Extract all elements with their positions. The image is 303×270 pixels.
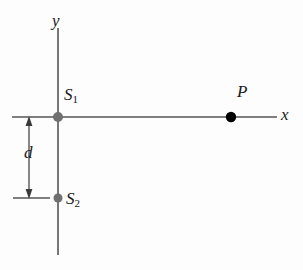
diagram-canvas [0, 0, 303, 270]
observation-point-p [226, 112, 236, 122]
x-axis-label: x [281, 106, 289, 123]
physics-diagram-figure: y x S1 S2 P d [0, 0, 303, 270]
source-point-s1 [53, 112, 63, 122]
source-point-s2 [54, 194, 63, 203]
observation-label-p: P [237, 83, 247, 100]
source-label-s2-letter: S [66, 189, 75, 208]
dimension-label-d: d [24, 144, 33, 161]
source-label-s1-letter: S [64, 85, 73, 104]
source-label-s1-subscript: 1 [73, 93, 79, 105]
y-axis-label: y [52, 12, 60, 29]
source-label-s1: S1 [64, 86, 78, 103]
source-label-s2-subscript: 2 [75, 197, 81, 209]
source-label-s2: S2 [66, 190, 80, 207]
